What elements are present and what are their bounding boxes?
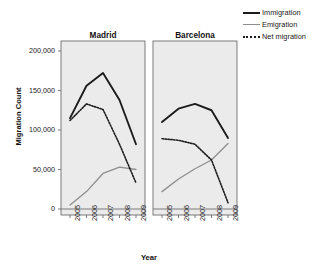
- legend-label-emigration: Emigration: [262, 20, 297, 29]
- legend-line-icon-emigration: [243, 20, 260, 29]
- chart-legend: Immigration Emigration Net migration: [243, 7, 326, 43]
- x-tick-label: 2006: [90, 205, 99, 221]
- panel-title-barcelona: Barcelona: [153, 31, 237, 40]
- y-axis-label: Migration Count: [14, 69, 23, 165]
- x-tick-label: 2005: [165, 205, 174, 221]
- y-tick-label: 50,000: [9, 165, 55, 174]
- legend-line-icon-immigration: [243, 8, 260, 17]
- y-tick-label: 200,000: [9, 46, 55, 55]
- legend-item-net-migration: Net migration: [243, 31, 326, 42]
- y-tick-label: 100,000: [9, 125, 55, 134]
- x-tick-label: 2008: [123, 205, 132, 221]
- x-tick-label: 2007: [198, 205, 207, 221]
- x-tick-label: 2008: [215, 205, 224, 221]
- x-tick-label: 2009: [139, 205, 148, 221]
- panel-title-madrid: Madrid: [61, 31, 145, 40]
- x-tick-label: 2006: [182, 205, 191, 221]
- legend-item-emigration: Emigration: [243, 19, 326, 30]
- migration-chart: Madrid Barcelona Migration Count Year 20…: [0, 0, 326, 271]
- x-axis-label: Year: [93, 253, 205, 262]
- y-tick-label: 150,000: [9, 86, 55, 95]
- legend-label-immigration: Immigration: [262, 8, 301, 17]
- legend-line-icon-net-migration: [243, 32, 260, 41]
- legend-label-net-migration: Net migration: [262, 32, 306, 41]
- y-tick-label: 0: [9, 204, 55, 213]
- x-tick-label: 2009: [231, 205, 240, 221]
- x-tick-label: 2007: [106, 205, 115, 221]
- x-tick-label: 2005: [73, 205, 82, 221]
- legend-item-immigration: Immigration: [243, 7, 326, 18]
